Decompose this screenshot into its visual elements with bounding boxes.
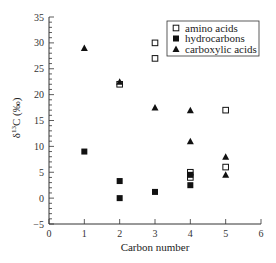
- y-tick-label: 10: [34, 141, 44, 152]
- x-tick-label: 2: [117, 228, 122, 239]
- data-points: [81, 40, 229, 201]
- point-carboxylic-acids: [222, 171, 229, 178]
- x-tick-label: 6: [259, 228, 264, 239]
- point-hydrocarbons: [187, 182, 193, 188]
- point-amino-acids: [152, 56, 158, 62]
- point-amino-acids: [223, 164, 229, 170]
- y-tick-label: 30: [34, 37, 44, 48]
- y-tick-label: 15: [34, 115, 44, 126]
- point-carboxylic-acids: [81, 45, 88, 52]
- y-tick-label: −5: [33, 219, 44, 230]
- scatter-chart: −5051015202530350123456 amino acidshydro…: [0, 0, 276, 263]
- legend: amino acidshydrocarbonscarboxylic acids: [167, 21, 259, 56]
- legend-label-carboxylic-acids: carboxylic acids: [185, 43, 257, 55]
- legend-marker-amino-acids: [173, 25, 179, 31]
- x-tick-label: 3: [153, 228, 158, 239]
- point-carboxylic-acids: [222, 153, 229, 160]
- x-tick-label: 1: [82, 228, 87, 239]
- x-tick-label: 4: [188, 228, 193, 239]
- x-tick-label: 5: [223, 228, 228, 239]
- x-tick-label: 0: [47, 228, 52, 239]
- y-axis-label: δ13C (‰): [10, 97, 23, 138]
- point-hydrocarbons: [117, 195, 123, 201]
- y-tick-label: 25: [34, 63, 44, 74]
- point-carboxylic-acids: [187, 107, 194, 114]
- point-amino-acids: [223, 107, 229, 113]
- x-axis-label: Carbon number: [121, 241, 190, 253]
- y-tick-label: 35: [34, 12, 44, 23]
- point-hydrocarbons: [81, 149, 87, 155]
- y-tick-label: 5: [39, 167, 44, 178]
- point-carboxylic-acids: [187, 138, 194, 145]
- y-tick-label: 20: [34, 89, 44, 100]
- point-carboxylic-acids: [152, 104, 159, 111]
- point-hydrocarbons: [117, 178, 123, 184]
- y-axis-label-rest: C (‰): [10, 97, 23, 126]
- y-tick-label: 0: [39, 193, 44, 204]
- point-hydrocarbons: [187, 172, 193, 178]
- point-amino-acids: [152, 40, 158, 46]
- point-hydrocarbons: [152, 189, 158, 195]
- legend-marker-hydrocarbons: [173, 36, 179, 42]
